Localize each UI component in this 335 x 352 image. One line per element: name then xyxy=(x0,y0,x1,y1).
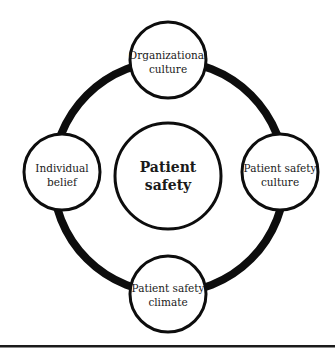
node-bottom-line2: climate xyxy=(148,296,187,308)
center-label-line1: Patient xyxy=(140,159,197,175)
node-patient-safety-culture: Patient safety culture xyxy=(242,134,318,210)
node-bottom-line1: Patient safety xyxy=(132,282,205,294)
bottom-divider xyxy=(0,345,335,348)
center-label-line2: safety xyxy=(145,177,192,193)
node-top-line2: culture xyxy=(149,63,187,75)
node-patient-safety-climate: Patient safety climate xyxy=(130,256,206,332)
patient-safety-diagram: Patient safety Organizational culture In… xyxy=(0,0,335,352)
node-right-line1: Patient safety xyxy=(244,162,317,174)
node-left-line1: Individual xyxy=(35,162,89,174)
node-left-line2: belief xyxy=(47,176,78,188)
center-node: Patient safety xyxy=(115,123,221,229)
node-top-line1: Organizational xyxy=(129,49,208,61)
node-organizational-culture: Organizational culture xyxy=(129,22,208,98)
node-individual-belief: Individual belief xyxy=(24,134,100,210)
node-right-line2: culture xyxy=(261,176,299,188)
